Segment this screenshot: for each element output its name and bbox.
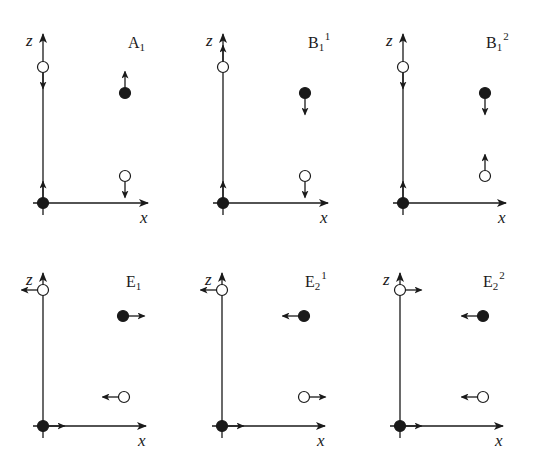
open-atom-icon bbox=[398, 62, 409, 73]
open-atom-icon bbox=[218, 62, 229, 73]
open-atom-icon bbox=[299, 392, 310, 403]
z-axis-label: z bbox=[382, 270, 390, 289]
filled-atom-icon bbox=[217, 421, 228, 432]
z-axis-label: z bbox=[205, 31, 213, 50]
open-atom-icon bbox=[478, 392, 489, 403]
x-axis-label: x bbox=[316, 431, 325, 450]
x-axis-label: x bbox=[497, 208, 506, 227]
filled-atom-icon bbox=[120, 88, 131, 99]
x-axis-label: x bbox=[494, 431, 503, 450]
z-axis-label: z bbox=[25, 31, 33, 50]
mode-label: E1 bbox=[126, 273, 141, 292]
filled-atom-icon bbox=[218, 198, 229, 209]
z-axis-label: z bbox=[204, 270, 212, 289]
z-axis-label: z bbox=[385, 31, 393, 50]
x-axis-label: x bbox=[319, 208, 328, 227]
panel-b1-sup1: zxB11 bbox=[205, 30, 330, 227]
open-atom-icon bbox=[38, 62, 49, 73]
mode-label: E21 bbox=[305, 269, 327, 292]
filled-atom-icon bbox=[38, 198, 49, 209]
filled-atom-icon bbox=[395, 421, 406, 432]
open-atom-icon bbox=[119, 392, 130, 403]
x-axis-label: x bbox=[139, 208, 148, 227]
filled-atom-icon bbox=[398, 198, 409, 209]
mode-label: E22 bbox=[483, 269, 505, 292]
mode-label: B12 bbox=[486, 30, 509, 53]
filled-atom-icon bbox=[480, 88, 491, 99]
filled-atom-icon bbox=[300, 88, 311, 99]
panel-b1-sup2: zxB12 bbox=[385, 30, 509, 227]
filled-atom-icon bbox=[118, 311, 129, 322]
open-atom-icon bbox=[300, 171, 311, 182]
panel-e2-sup2: zxE22 bbox=[382, 269, 505, 450]
open-atom-icon bbox=[217, 285, 228, 296]
filled-atom-icon bbox=[299, 311, 310, 322]
filled-atom-icon bbox=[38, 421, 49, 432]
open-atom-icon bbox=[120, 171, 131, 182]
open-atom-icon bbox=[395, 285, 406, 296]
x-axis-label: x bbox=[137, 431, 146, 450]
z-axis-label: z bbox=[25, 270, 33, 289]
open-atom-icon bbox=[480, 171, 491, 182]
mode-label: B11 bbox=[308, 30, 330, 53]
panel-e2-sup1: zxE21 bbox=[201, 269, 327, 450]
mode-label: A1 bbox=[128, 34, 145, 53]
filled-atom-icon bbox=[478, 311, 489, 322]
open-atom-icon bbox=[38, 285, 49, 296]
panel-a1: zxA1 bbox=[25, 31, 148, 227]
panel-e1: zxE1 bbox=[22, 270, 147, 450]
vibrational-modes-diagram: zxA1zxB11zxB12zxE1zxE21zxE22 bbox=[0, 0, 534, 470]
